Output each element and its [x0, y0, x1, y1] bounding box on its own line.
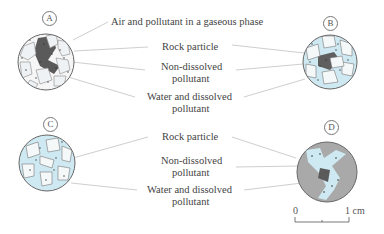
label-rock-particle-bottom: Rock particle — [162, 131, 218, 143]
label-gas-phase: Air and pollutant in a gaseous phase — [111, 16, 263, 28]
label-nondissolved-top-2: pollutant — [172, 73, 209, 85]
scale-bar — [295, 217, 349, 222]
scale-end-label: 1 cm — [345, 205, 365, 216]
panel-d-letter: D — [324, 120, 339, 135]
panel-c-letter: C — [43, 117, 58, 132]
label-water-top-2: pollutant — [172, 103, 209, 115]
scale-start-label: 0 — [293, 205, 298, 216]
label-rock-particle-top: Rock particle — [162, 41, 218, 53]
label-water-top-1: Water and dissolved — [147, 91, 232, 103]
label-water-bottom-1: Water and dissolved — [147, 184, 232, 196]
panel-b-letter: B — [323, 16, 338, 31]
label-nondissolved-bottom-2: pollutant — [172, 167, 209, 179]
leader-lines-top — [68, 22, 305, 97]
label-water-bottom-2: pollutant — [172, 196, 209, 208]
label-nondissolved-top-1: Non-dissolved — [161, 61, 222, 73]
label-nondissolved-bottom-1: Non-dissolved — [161, 155, 222, 167]
soil-pollutant-diagram: A B C D Air and pollutant in a gaseous p… — [0, 0, 384, 234]
panel-a-letter: A — [42, 11, 57, 26]
